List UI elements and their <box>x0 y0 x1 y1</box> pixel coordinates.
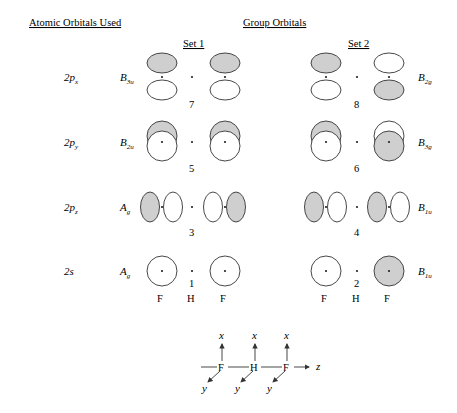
group-orbitals-header: Group Orbitals <box>243 17 306 28</box>
nucleus-dot <box>388 76 390 78</box>
h-dot <box>191 76 193 78</box>
row-2px: 2px B3u 7 8 B2g <box>64 53 432 110</box>
orbital-number: 5 <box>189 163 194 174</box>
row-2pz: 2pz Ag 3 4 B1u <box>64 192 432 238</box>
p-lobe-open <box>204 192 223 222</box>
nucleus-dot <box>388 141 390 143</box>
set2-header: Set 2 <box>348 38 369 49</box>
p-lobe-front-open <box>311 131 341 161</box>
atom-label-f: F <box>321 293 327 304</box>
orbital-number: 4 <box>354 227 360 238</box>
nucleus-dot <box>388 270 390 272</box>
group-orbitals-diagram: Atomic Orbitals Used Group Orbitals Set … <box>0 0 457 413</box>
axis-atom-h: H <box>250 362 258 373</box>
p-lobe-shaded <box>141 192 160 222</box>
set1-symmetry-label: B2u <box>120 136 134 151</box>
row-2s: 2s Ag 1 F H F 2 F H F B1u <box>64 256 432 304</box>
nucleus-dot <box>224 76 226 78</box>
orbital-number: 1 <box>189 278 194 289</box>
p-lobe-shaded <box>227 192 246 222</box>
y-axis-label: y <box>234 382 240 394</box>
atom-label-f: F <box>157 293 163 304</box>
set1-symmetry-label: B3u <box>120 71 134 86</box>
nucleus-dot <box>161 76 163 78</box>
set2-symmetry-label: B1u <box>418 201 432 216</box>
y-axis-label: y <box>266 382 272 394</box>
nucleus-dot <box>325 270 327 272</box>
ao-label: 2s <box>64 265 74 277</box>
y-axis-label: y <box>201 382 207 394</box>
h-dot <box>356 141 358 143</box>
p-lobe-front-shaded <box>374 131 404 161</box>
p-lobe-shaded <box>368 192 387 222</box>
nucleus-dot <box>325 141 327 143</box>
nucleus-dot <box>224 270 226 272</box>
nucleus-dot <box>161 206 163 208</box>
orbital-number: 2 <box>354 278 359 289</box>
h-dot <box>356 206 358 208</box>
atom-label-h: H <box>187 293 195 304</box>
set1-symmetry-label: Ag <box>119 201 131 216</box>
atomic-orbitals-header: Atomic Orbitals Used <box>29 17 122 28</box>
atom-label-h: H <box>352 293 360 304</box>
x-axis-label: x <box>251 329 257 341</box>
p-lobe-shaded <box>305 192 324 222</box>
atom-label-f: F <box>220 293 226 304</box>
nucleus-dot <box>161 141 163 143</box>
h-dot <box>191 141 193 143</box>
atom-label-f: F <box>384 293 390 304</box>
orbital-number: 6 <box>354 163 359 174</box>
p-lobe-shaded <box>311 53 341 73</box>
nucleus-dot <box>388 206 390 208</box>
x-axis-label: x <box>283 329 289 341</box>
h-dot <box>191 270 193 272</box>
p-lobe-open <box>391 192 410 222</box>
ao-label: 2pz <box>64 201 78 216</box>
nucleus-dot <box>224 206 226 208</box>
set1-header: Set 1 <box>183 38 204 49</box>
nucleus-dot <box>325 76 327 78</box>
row-2py: 2py B2u 5 6 B3g <box>64 121 432 174</box>
set2-symmetry-label: B3g <box>418 136 432 151</box>
nucleus-dot <box>325 206 327 208</box>
ao-label: 2px <box>64 71 79 86</box>
p-lobe-open <box>147 80 177 100</box>
set2-symmetry-label: B2g <box>418 71 432 86</box>
nucleus-dot <box>224 141 226 143</box>
p-lobe-open <box>311 80 341 100</box>
set2-symmetry-label: B1u <box>418 265 432 280</box>
z-axis-label: z <box>315 360 321 372</box>
h-dot <box>356 270 358 272</box>
p-lobe-shaded <box>374 80 404 100</box>
h-dot <box>356 76 358 78</box>
p-lobe-front-open <box>210 131 240 161</box>
p-lobe-front-open <box>147 131 177 161</box>
h-dot <box>191 206 193 208</box>
x-axis-label: x <box>218 329 224 341</box>
axis-atom-f: F <box>283 362 289 373</box>
p-lobe-open <box>374 53 404 73</box>
p-lobe-shaded <box>147 53 177 73</box>
set1-symmetry-label: Ag <box>119 265 131 280</box>
axis-atom-f: F <box>218 362 224 373</box>
p-lobe-open <box>210 80 240 100</box>
p-lobe-open <box>164 192 183 222</box>
p-lobe-open <box>328 192 347 222</box>
nucleus-dot <box>161 270 163 272</box>
axis-labels: F H F x x x y y y z <box>201 329 321 394</box>
orbital-number: 3 <box>189 227 194 238</box>
ao-label: 2py <box>64 136 79 151</box>
p-lobe-shaded <box>210 53 240 73</box>
orbital-number: 8 <box>354 99 359 110</box>
orbital-number: 7 <box>189 99 194 110</box>
